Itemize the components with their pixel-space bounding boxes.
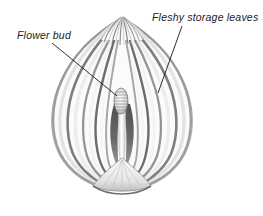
bulb-diagram: Flower bud Fleshy storage leaves xyxy=(0,0,263,216)
label-flower-bud: Flower bud xyxy=(17,29,72,41)
label-fleshy-storage-leaves: Fleshy storage leaves xyxy=(152,11,259,23)
bulb-body xyxy=(52,17,193,194)
flower-bud-structure xyxy=(114,88,128,114)
